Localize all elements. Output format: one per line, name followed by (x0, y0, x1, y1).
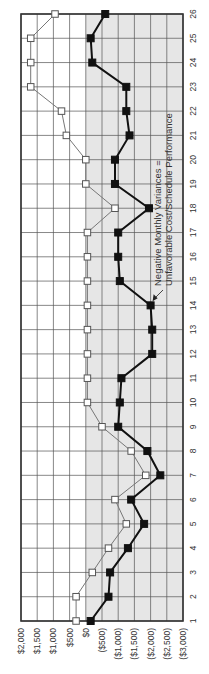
filled-square-marker (116, 278, 123, 285)
x-tick-label: 17 (188, 228, 198, 238)
x-tick-label: 26 (188, 9, 198, 19)
x-tick-label: 16 (188, 252, 198, 262)
filled-square-marker (128, 496, 135, 503)
y-tick-label: $0 (81, 628, 91, 638)
filled-square-marker (105, 593, 112, 600)
x-tick-label: 24 (188, 58, 198, 68)
open-square-marker (73, 593, 80, 600)
y-tick-label: $1,000 (48, 628, 58, 654)
x-tick-label: 23 (188, 82, 198, 92)
filled-square-marker (87, 35, 94, 42)
filled-square-marker (149, 350, 156, 357)
y-tick-label: ($3,000) (178, 628, 188, 660)
open-square-marker (27, 84, 34, 91)
x-tick-label: 8 (188, 448, 198, 453)
y-tick-label: ($1,000) (113, 628, 123, 660)
filled-square-marker (123, 108, 130, 115)
filled-square-marker (149, 326, 156, 333)
filled-square-marker (87, 618, 94, 625)
y-tick-label: ($500) (97, 628, 107, 653)
filled-square-marker (89, 59, 96, 66)
open-square-marker (73, 618, 80, 625)
y-tick-label: $1,500 (32, 628, 42, 654)
open-square-marker (83, 181, 90, 188)
annotation-line-2: Unfavorable Cost/Schedule Performance (163, 113, 174, 286)
open-square-marker (84, 302, 91, 309)
open-square-marker (84, 278, 91, 285)
y-axis-tick-labels: $2,000$1,500$1,000$500$0($500)($1,000)($… (16, 628, 188, 660)
open-square-marker (105, 545, 112, 552)
x-tick-label: 3 (188, 570, 198, 575)
filled-square-marker (157, 472, 164, 479)
x-tick-label: 4 (188, 546, 198, 551)
open-square-marker (84, 229, 91, 236)
open-square-marker (123, 521, 130, 528)
open-square-marker (142, 472, 149, 479)
variance-chart: $2,000$1,500$1,000$500$0($500)($1,000)($… (0, 0, 209, 674)
y-tick-label: ($1,500) (129, 628, 139, 660)
x-tick-label: 10 (188, 398, 198, 408)
open-square-marker (84, 375, 91, 382)
filled-square-marker (107, 569, 114, 576)
x-tick-label: 19 (188, 179, 198, 189)
x-tick-label: 11 (188, 374, 198, 383)
open-square-marker (84, 326, 91, 333)
x-tick-label: 1 (188, 618, 198, 623)
y-tick-label: ($2,500) (162, 628, 172, 660)
open-square-marker (84, 351, 91, 358)
x-tick-label: 13 (188, 325, 198, 335)
filled-square-marker (111, 156, 118, 163)
y-tick-label: $500 (65, 628, 75, 647)
open-square-marker (84, 399, 91, 406)
open-square-marker (128, 448, 135, 455)
filled-square-marker (126, 132, 133, 139)
y-tick-label: ($2,000) (146, 628, 156, 660)
open-square-marker (27, 35, 34, 42)
filled-square-marker (102, 11, 109, 18)
filled-square-marker (147, 302, 154, 309)
x-tick-label: 2 (188, 594, 198, 599)
y-tick-label: $2,000 (16, 628, 26, 654)
x-axis-tick-labels: 1234567891011121314151617181920212223242… (188, 9, 198, 623)
open-square-marker (52, 11, 59, 18)
x-tick-label: 20 (188, 155, 198, 165)
x-tick-label: 5 (188, 521, 198, 526)
annotation-line-1: Negative Monthly Variances = (152, 160, 163, 286)
filled-square-marker (115, 423, 122, 430)
open-square-marker (27, 59, 34, 65)
open-square-marker (63, 132, 70, 139)
open-square-marker (112, 496, 119, 503)
open-square-marker (99, 424, 106, 431)
open-square-marker (58, 108, 65, 115)
filled-square-marker (111, 180, 118, 187)
x-tick-label: 22 (188, 106, 198, 116)
x-tick-label: 14 (188, 300, 198, 310)
filled-square-marker (115, 253, 122, 260)
filled-square-marker (118, 375, 125, 382)
x-tick-label: 12 (188, 349, 198, 359)
x-tick-label: 7 (188, 473, 198, 478)
x-tick-label: 9 (188, 424, 198, 429)
open-square-marker (112, 205, 119, 212)
open-square-marker (84, 254, 91, 260)
filled-square-marker (141, 520, 148, 527)
filled-square-marker (116, 399, 123, 406)
filled-square-marker (115, 229, 122, 236)
x-tick-label: 21 (188, 130, 198, 140)
x-tick-label: 18 (188, 203, 198, 213)
x-tick-label: 6 (188, 497, 198, 502)
open-square-marker (89, 569, 96, 576)
open-square-marker (83, 156, 90, 163)
filled-square-marker (124, 545, 131, 552)
x-tick-label: 15 (188, 276, 198, 286)
filled-square-marker (123, 83, 130, 90)
x-tick-label: 25 (188, 33, 198, 43)
filled-square-marker (144, 448, 151, 455)
